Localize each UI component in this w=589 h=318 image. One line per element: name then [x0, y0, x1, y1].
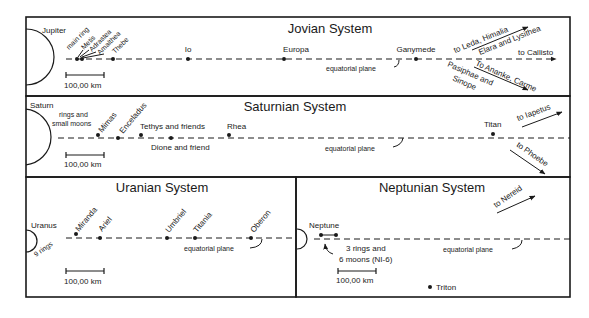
moon-dot-tethys — [139, 133, 143, 137]
moon-label-oberon: Oberon — [249, 208, 273, 234]
uranian-scale-label: 100,00 km — [64, 277, 102, 286]
plane-pointer — [250, 239, 262, 248]
moon-dot-rhea — [227, 133, 231, 137]
outer-label-iapetus: to Iapetus — [516, 102, 552, 122]
outer-label-phoebe: to Phoebe — [515, 140, 550, 169]
rings-label-2: 6 moons (NI-6) — [339, 255, 393, 264]
moon-dot-dione — [169, 136, 173, 140]
moon-dot-ariel — [98, 236, 102, 240]
rings-label-2: small moons — [52, 120, 92, 127]
outer-label-nereid: to Nereid — [492, 184, 524, 210]
moon-dot-metis — [75, 57, 79, 61]
moon-dot-triton — [428, 285, 432, 289]
neptunian-plane-label: equatorial plane — [443, 246, 493, 254]
neptune-label: Neptune — [309, 221, 340, 230]
saturnian-scale-label: 100,00 km — [64, 160, 102, 169]
moon-dot-oberon — [249, 236, 253, 240]
solar-system-satellites-diagram: Jovian System Jupiter main ring Metis Ad… — [0, 0, 589, 318]
rings-label-1: rings and — [59, 111, 88, 119]
moon-dot-europa — [282, 57, 286, 61]
moon-label-triton: Triton — [436, 283, 456, 292]
neptunian-title: Neptunian System — [379, 180, 485, 195]
jovian-title: Jovian System — [288, 21, 373, 36]
uranian-title: Uranian System — [116, 180, 208, 195]
saturnian-title: Saturnian System — [244, 99, 347, 114]
moon-dot-titan — [491, 132, 495, 136]
moon-label-ganymede: Ganymede — [396, 45, 436, 54]
moon-dot-thebe — [111, 57, 115, 61]
outer-label-callisto: to Callisto — [518, 48, 554, 57]
moon-label-dione: Dione and friend — [151, 143, 210, 152]
moon-dot-umbriel — [165, 236, 169, 240]
leader-line — [78, 50, 83, 57]
uranian-plane-label: equatorial plane — [184, 245, 234, 253]
jovian-system-panel: Jovian System Jupiter main ring Metis Ad… — [0, 17, 570, 96]
jovian-plane-label: equatorial plane — [326, 65, 376, 73]
moon-dot-enceladus — [116, 136, 120, 140]
neptunian-scale-label: 100,00 km — [336, 276, 374, 285]
uranian-system-panel: Uranian System Uranus 9 rings Miranda Ar… — [26, 177, 296, 297]
moon-label-ariel: Ariel — [97, 215, 114, 233]
saturn-label: Saturn — [30, 101, 54, 110]
rings-pointer — [325, 244, 333, 254]
uranus-label: Uranus — [31, 221, 57, 230]
plane-pointer — [512, 240, 522, 249]
moon-label-europa: Europa — [283, 45, 309, 54]
neptunian-system-panel: Neptunian System Neptune 3 rings and 6 m… — [296, 177, 570, 297]
moon-label-rhea: Rhea — [227, 122, 247, 131]
neptune-planet — [297, 229, 307, 249]
moon-dot-titania — [193, 236, 197, 240]
rings-label-1: 3 rings and — [346, 244, 386, 253]
moon-label-miranda: Miranda — [74, 205, 100, 233]
moon-dot-miranda — [74, 232, 78, 236]
saturnian-system-panel: Saturnian System Saturn rings and small … — [0, 96, 570, 177]
moon-dot-mimas — [96, 133, 100, 137]
uranus-planet — [26, 230, 37, 252]
moon-label-mimas: Mimas — [97, 110, 119, 134]
jupiter-planet — [0, 29, 54, 85]
jupiter-label: Jupiter — [42, 26, 66, 35]
moon-label-titan: Titan — [484, 120, 502, 129]
rings-label: 9 rings — [33, 240, 55, 259]
plane-pointer — [394, 60, 399, 67]
moon-label-titania: Titania — [192, 210, 214, 234]
moon-label-tethys: Tethys and friends — [140, 122, 205, 131]
plane-pointer — [393, 138, 403, 147]
saturnian-plane-label: equatorial plane — [325, 145, 375, 153]
moon-dot-io — [186, 57, 190, 61]
jovian-scale-label: 100,00 km — [64, 81, 102, 90]
moon-label-umbriel: Umbriel — [164, 207, 189, 234]
moon-dot-ganymede — [414, 57, 418, 61]
moon-label-io: Io — [185, 45, 192, 54]
